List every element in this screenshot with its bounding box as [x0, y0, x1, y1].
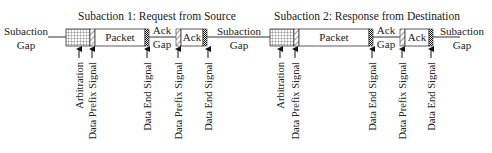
ack-label: Ack [183, 31, 202, 43]
arbitration-block [66, 29, 90, 46]
subaction-2: Packet Ack Gap Ack Arbitration Data Pref… [270, 24, 437, 140]
signal-label-data-end: Data End Signal [142, 62, 153, 131]
signal-label-data-prefix: Data Prefix Signal [87, 62, 98, 140]
data-prefix-block [294, 29, 299, 46]
subaction-gap-label-2b: Gap [230, 39, 249, 51]
subaction-2-title: Subaction 2: Response from Destination [274, 10, 460, 23]
packet-label: Packet [105, 31, 134, 43]
subaction-gap-label-1a: Subaction [4, 25, 48, 37]
signal-label-arbitration: Arbitration [275, 61, 286, 108]
packet-label: Packet [319, 31, 348, 43]
subaction-1: Packet Ack Gap Ack Arbitration Data Pref… [66, 24, 214, 140]
ack-gap-label-bottom: Gap [153, 38, 172, 50]
signal-label-data-prefix: Data Prefix Signal [290, 62, 301, 140]
ack-data-prefix-block [400, 29, 405, 46]
subaction-gap-label-3a: Subaction [440, 25, 484, 37]
signal-label-ack-data-prefix: Data Prefix Signal [173, 62, 184, 140]
subaction-timing-diagram: Subaction 1: Request from Source Subacti… [0, 0, 492, 153]
data-end-block [369, 29, 373, 46]
signal-label-ack-data-end: Data End Signal [203, 62, 214, 131]
subaction-gap-label-2a: Subaction [217, 25, 261, 37]
ack-gap-label-top: Ack [377, 24, 396, 36]
ack-gap-label-bottom: Gap [377, 38, 396, 50]
subaction-gap-label-1b: Gap [17, 39, 36, 51]
ack-gap-label-top: Ack [153, 24, 172, 36]
signal-label-ack-data-end: Data End Signal [426, 62, 437, 131]
signal-label-arbitration: Arbitration [74, 61, 85, 108]
subaction-1-title: Subaction 1: Request from Source [78, 10, 236, 23]
signal-label-ack-data-prefix: Data Prefix Signal [397, 62, 408, 140]
arbitration-block [270, 29, 294, 46]
data-prefix-block [90, 29, 95, 46]
ack-data-prefix-block [176, 29, 181, 46]
signal-label-data-end: Data End Signal [367, 62, 378, 131]
ack-label: Ack [408, 31, 427, 43]
ack-data-end-block [203, 29, 207, 46]
ack-data-end-block [429, 29, 433, 46]
subaction-gap-label-3b: Gap [453, 39, 472, 51]
data-end-block [145, 29, 149, 46]
